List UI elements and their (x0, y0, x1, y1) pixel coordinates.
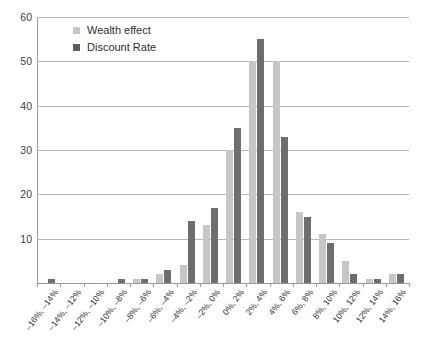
bar-group (363, 17, 386, 283)
bar-group (246, 17, 269, 283)
bar (327, 243, 334, 283)
legend-swatch-wealth-effect (73, 27, 80, 34)
bar-group (223, 17, 246, 283)
legend-item-discount-rate: Discount Rate (73, 40, 203, 55)
bar-group (386, 17, 409, 283)
x-tick (84, 283, 85, 287)
x-tick (270, 283, 271, 287)
bar (164, 270, 171, 283)
x-tick (37, 283, 38, 287)
legend-swatch-discount-rate (73, 44, 80, 51)
y-tick-label-60: 60 (2, 12, 32, 23)
histogram-chart: 102030405060 –16%, –14%–14%, –12%–12%, –… (0, 0, 422, 344)
bar (226, 150, 233, 283)
x-tick (130, 283, 131, 287)
bar (156, 274, 163, 283)
bar (281, 137, 288, 283)
bar (211, 208, 218, 283)
x-tick-label: 2%, 4% (244, 288, 269, 317)
x-tick-label: 4%, 6% (267, 288, 292, 317)
bar (257, 39, 264, 283)
chart-legend: Wealth effect Discount Rate (73, 23, 203, 57)
bar (296, 212, 303, 283)
x-tick (293, 283, 294, 287)
x-tick (177, 283, 178, 287)
y-tick-label-20: 20 (2, 189, 32, 200)
y-tick-label-10: 10 (2, 233, 32, 244)
x-tick (246, 283, 247, 287)
x-tick (409, 283, 410, 287)
bar (234, 128, 241, 283)
bar (180, 265, 187, 283)
bar-group (37, 17, 60, 283)
bar (249, 61, 256, 283)
legend-item-wealth-effect: Wealth effect (73, 23, 203, 38)
x-tick (60, 283, 61, 287)
bar-group (200, 17, 223, 283)
y-tick-label-40: 40 (2, 100, 32, 111)
x-tick-label: 0%, 2% (221, 288, 246, 317)
bar (304, 217, 311, 284)
x-tick (363, 283, 364, 287)
y-tick-label-30: 30 (2, 145, 32, 156)
y-axis-tick-labels: 102030405060 (0, 17, 32, 283)
bar (397, 274, 404, 283)
bar (319, 234, 326, 283)
bar (350, 274, 357, 283)
bar (273, 61, 280, 283)
bar-group (270, 17, 293, 283)
legend-label-discount-rate: Discount Rate (87, 42, 156, 53)
x-axis-tick-labels: –16%, –14%–14%, –12%–12%, –10%–10%, –8%–… (0, 288, 422, 344)
bar-group (339, 17, 362, 283)
y-tick-label-50: 50 (2, 56, 32, 67)
x-tick (339, 283, 340, 287)
x-tick (316, 283, 317, 287)
bar (342, 261, 349, 283)
x-tick (200, 283, 201, 287)
bar (188, 221, 195, 283)
legend-label-wealth-effect: Wealth effect (87, 25, 151, 36)
x-tick (386, 283, 387, 287)
bar-group (293, 17, 316, 283)
x-tick (107, 283, 108, 287)
x-tick (223, 283, 224, 287)
bar-group (316, 17, 339, 283)
x-tick (153, 283, 154, 287)
bar (203, 225, 210, 283)
bar (389, 274, 396, 283)
